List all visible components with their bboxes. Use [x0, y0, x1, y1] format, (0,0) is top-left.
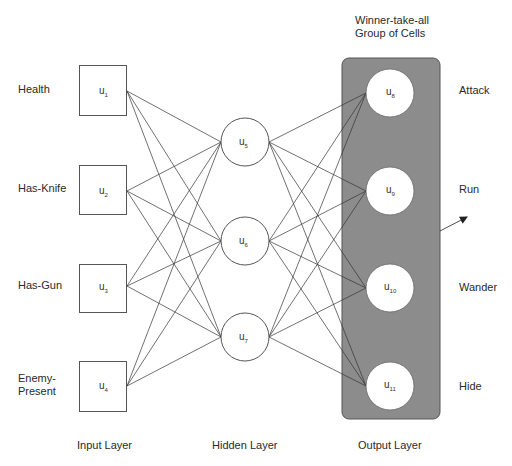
input-label-enemy-line1: Enemy-	[18, 372, 56, 385]
group-title-line2: Group of Cells	[355, 27, 425, 40]
hidden-node-u6	[221, 217, 269, 265]
input-label-enemy-present: Enemy- Present	[18, 372, 56, 398]
network-diagram: u1 u2 u3 u4 u5 u6 u7 u8 u9 u10 u11	[0, 0, 512, 466]
layer-title-input: Input Layer	[77, 439, 132, 452]
hidden-node-u7	[221, 313, 269, 361]
input-label-has-gun: Has-Gun	[18, 279, 62, 292]
output-label-run: Run	[459, 183, 479, 196]
input-hidden-connections	[127, 91, 221, 386]
input-label-enemy-line2: Present	[18, 385, 56, 398]
layer-title-output: Output Layer	[358, 439, 422, 452]
output-label-wander: Wander	[459, 281, 497, 294]
input-label-health: Health	[18, 83, 50, 96]
layer-title-hidden: Hidden Layer	[212, 439, 277, 452]
group-title: Winner-take-all Group of Cells	[355, 14, 425, 40]
output-arrow-icon	[440, 217, 467, 231]
group-title-line1: Winner-take-all	[355, 14, 425, 27]
hidden-node-u5	[221, 118, 269, 166]
hidden-layer-nodes	[221, 118, 269, 361]
output-label-hide: Hide	[459, 380, 482, 393]
output-label-attack: Attack	[459, 84, 490, 97]
input-layer-nodes	[80, 66, 127, 412]
input-label-has-knife: Has-Knife	[18, 182, 66, 195]
